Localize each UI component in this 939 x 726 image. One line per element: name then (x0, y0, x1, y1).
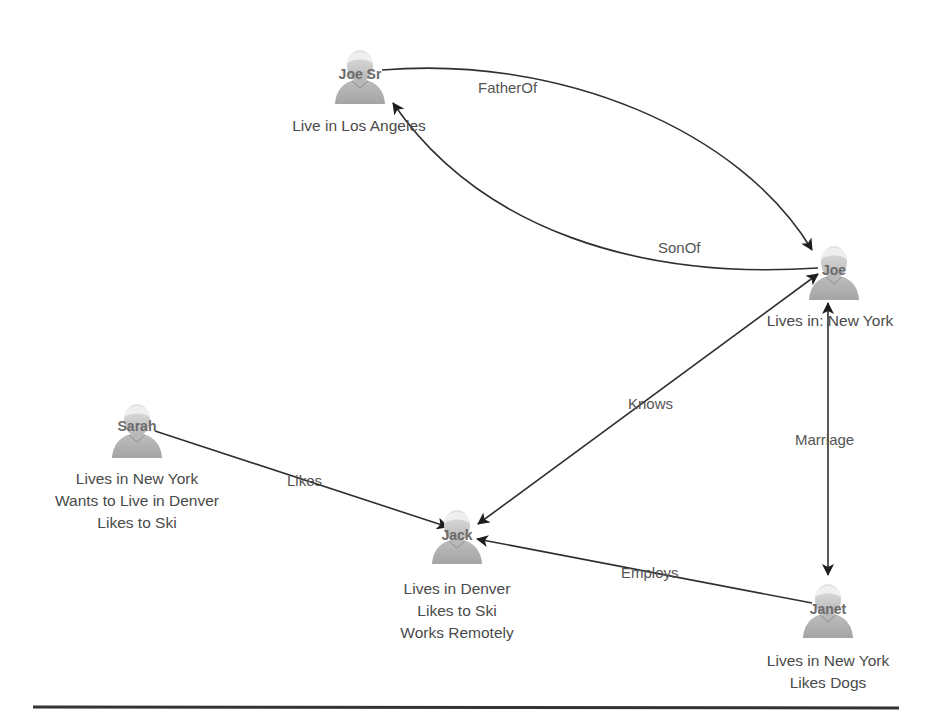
node-name: Sarah (118, 418, 157, 434)
node-description: Live in Los Angeles (292, 117, 426, 134)
edge-sonof[interactable] (393, 103, 818, 270)
node-joe[interactable]: Joe Lives in: New York (767, 246, 894, 329)
node-description: Lives in New York (76, 470, 199, 487)
node-description: Lives in New York (767, 652, 890, 669)
edges (155, 68, 828, 603)
node-description: Lives in: New York (767, 312, 894, 329)
edge-label-sonof: SonOf (658, 239, 701, 256)
node-sarah[interactable]: Sarah Lives in New York Wants to Live in… (55, 404, 219, 531)
node-description: Likes Dogs (790, 674, 867, 691)
node-name: Joe Sr (339, 66, 382, 82)
edge-label-knows: Knows (628, 395, 673, 412)
edge-fatherof[interactable] (382, 68, 812, 250)
node-description: Likes to Ski (97, 514, 176, 531)
bottom-divider (33, 707, 899, 708)
node-description: Wants to Live in Denver (55, 492, 219, 509)
edge-labels: FatherOf SonOf Knows Marriage Likes Empl… (287, 79, 854, 581)
edge-label-employs: Employs (621, 564, 679, 581)
node-joe-sr[interactable]: Joe Sr Live in Los Angeles (292, 50, 426, 134)
node-description: Works Remotely (400, 624, 514, 641)
edge-label-likes: Likes (287, 472, 322, 489)
edge-label-marriage: Marriage (795, 431, 854, 448)
relationship-graph: Joe Sr Live in Los Angeles Joe Lives in:… (0, 0, 939, 726)
edge-label-fatherof: FatherOf (478, 79, 538, 96)
node-description: Likes to Ski (417, 602, 496, 619)
node-jack[interactable]: Jack Lives in Denver Likes to Ski Works … (400, 510, 514, 641)
node-name: Janet (810, 601, 847, 617)
node-name: Jack (441, 527, 472, 543)
node-description: Lives in Denver (404, 580, 511, 597)
node-name: Joe (822, 262, 846, 278)
node-janet[interactable]: Janet Lives in New York Likes Dogs (767, 584, 890, 691)
